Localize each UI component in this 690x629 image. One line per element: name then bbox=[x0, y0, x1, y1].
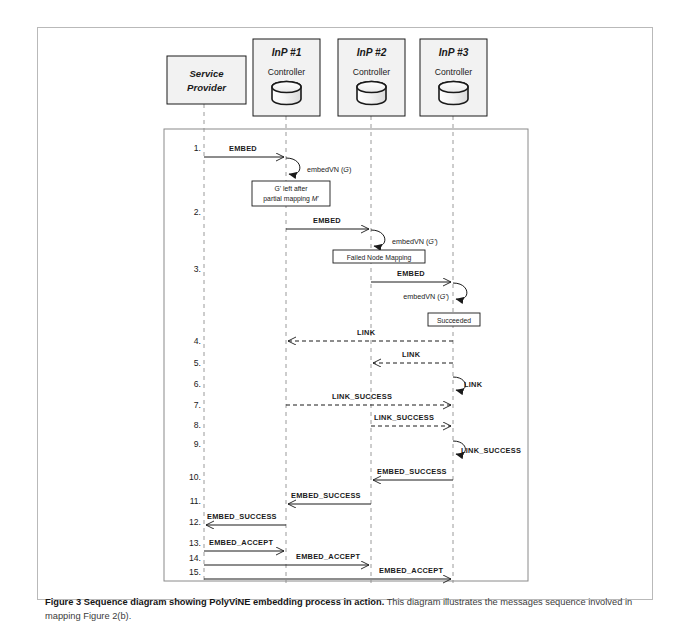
database-icon bbox=[439, 82, 468, 105]
self-call-inp3[interactable] bbox=[453, 283, 467, 299]
inp3-subtitle: Controller bbox=[435, 67, 472, 77]
inp1-title: InP #1 bbox=[272, 47, 302, 58]
note-failed-node-mapping[interactable]: Failed Node Mapping bbox=[333, 250, 425, 263]
step-number: 14. bbox=[189, 553, 201, 563]
message-label: LINK_SUCCESS bbox=[332, 392, 392, 401]
step-number-column: 1. 2. 3. 4. 5. 6. 7. 8. 9. 10. 11. 12. 1… bbox=[189, 143, 201, 577]
database-icon bbox=[272, 82, 301, 105]
note-succeeded[interactable]: Succeeded bbox=[428, 313, 480, 326]
service-provider-box bbox=[167, 56, 246, 104]
inp2-title: InP #2 bbox=[357, 47, 387, 58]
self-call-label: embedVN (G') bbox=[392, 237, 438, 246]
sequence-diagram: Service Provider InP #1 Controller InP #… bbox=[38, 28, 654, 601]
note-line: partial mapping M' bbox=[263, 195, 319, 203]
message-label: LINK bbox=[402, 350, 421, 359]
inp1-subtitle: Controller bbox=[268, 67, 305, 77]
self-call-arc bbox=[286, 158, 300, 174]
message-label: EMBED bbox=[229, 144, 257, 153]
self-call-inp1[interactable] bbox=[286, 158, 300, 174]
message-label: EMBED_ACCEPT bbox=[296, 552, 360, 561]
note-partial-mapping[interactable]: G' left after partial mapping M' bbox=[252, 181, 330, 206]
self-call-labels: embedVN (G) embedVN (G') embedVN (G') LI… bbox=[307, 165, 521, 455]
participant-inp3[interactable]: InP #3 Controller bbox=[420, 39, 487, 116]
step-number: 8. bbox=[194, 420, 201, 430]
step-number: 3. bbox=[194, 264, 201, 274]
step-number: 10. bbox=[189, 472, 201, 482]
message-label: EMBED bbox=[313, 216, 341, 225]
step-number: 5. bbox=[194, 358, 201, 368]
self-call-inp2[interactable] bbox=[371, 230, 385, 246]
note-line: Succeeded bbox=[437, 317, 471, 324]
self-call-label: embedVN (G') bbox=[403, 292, 449, 301]
message-label: EMBED_ACCEPT bbox=[379, 566, 443, 575]
message-labels: EMBED EMBED EMBED LINK LINK LINK_SUCCESS… bbox=[207, 144, 447, 575]
step-number: 13. bbox=[189, 538, 201, 548]
step-number: 7. bbox=[194, 400, 201, 410]
inp3-title: InP #3 bbox=[439, 47, 469, 58]
figure-card: Service Provider InP #1 Controller InP #… bbox=[37, 27, 653, 600]
figure-caption: Figure 3 Sequence diagram showing PolyVi… bbox=[45, 596, 645, 623]
self-call-label-link: LINK bbox=[464, 380, 483, 389]
caption-bold: Figure 3 Sequence diagram showing PolyVi… bbox=[45, 597, 384, 607]
step-number: 9. bbox=[194, 439, 201, 449]
step-number: 2. bbox=[194, 207, 201, 217]
message-label: EMBED_SUCCESS bbox=[377, 467, 447, 476]
participant-inp2[interactable]: InP #2 Controller bbox=[338, 39, 405, 116]
self-call-arc bbox=[371, 230, 385, 246]
message-label: LINK bbox=[357, 328, 376, 337]
self-call-label: embedVN (G) bbox=[307, 165, 351, 174]
step-number: 11. bbox=[190, 496, 201, 506]
service-provider-title-line2: Provider bbox=[187, 82, 227, 93]
step-number: 6. bbox=[194, 379, 201, 389]
step-number: 12. bbox=[189, 517, 201, 527]
step-number: 4. bbox=[194, 336, 201, 346]
participant-service-provider[interactable]: Service Provider bbox=[167, 56, 246, 104]
message-label: EMBED bbox=[397, 269, 425, 278]
message-label: EMBED_SUCCESS bbox=[291, 491, 361, 500]
note-line: G' left after bbox=[274, 185, 308, 192]
self-call-label-link-success: LINK_SUCCESS bbox=[461, 446, 521, 455]
message-label: LINK_SUCCESS bbox=[374, 413, 434, 422]
step-number: 1. bbox=[194, 143, 201, 153]
message-label: EMBED_SUCCESS bbox=[207, 512, 277, 521]
note-line: Failed Node Mapping bbox=[347, 254, 412, 262]
message-label: EMBED_ACCEPT bbox=[209, 538, 273, 547]
database-icon bbox=[357, 82, 386, 105]
participant-inp1[interactable]: InP #1 Controller bbox=[253, 39, 320, 116]
inp2-subtitle: Controller bbox=[353, 67, 390, 77]
service-provider-title-line1: Service bbox=[189, 68, 224, 79]
self-call-arc bbox=[453, 283, 467, 299]
step-number: 15. bbox=[189, 567, 201, 577]
